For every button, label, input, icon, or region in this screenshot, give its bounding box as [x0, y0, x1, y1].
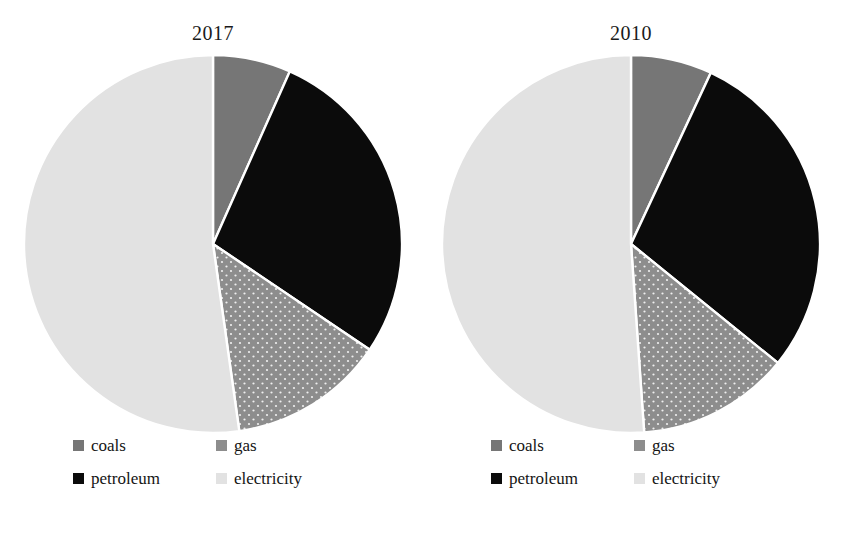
pie-2010 [440, 53, 822, 435]
legend-label-coals: coals [91, 437, 126, 454]
legend-swatch-electricity-icon [216, 473, 227, 484]
legend-item-gas[interactable]: gas [634, 437, 771, 454]
legend-label-electricity: electricity [652, 470, 720, 487]
page-title-2017: 2017 [0, 22, 426, 45]
legend-swatch-coals-icon [73, 440, 84, 451]
legend-label-gas: gas [652, 437, 675, 454]
legend-2017: coals gas petroleum electricity [73, 437, 353, 487]
pie-svg-2010 [440, 53, 822, 435]
legend-swatch-electricity-icon [634, 473, 645, 484]
legend-item-coals[interactable]: coals [73, 437, 210, 454]
chart-panel-2017: 2017 coals gas petroleum electricity [0, 0, 426, 534]
legend-label-petroleum: petroleum [91, 470, 160, 487]
legend-item-electricity[interactable]: electricity [216, 470, 353, 487]
pie-slice-electricity[interactable] [442, 55, 644, 433]
legend-label-gas: gas [234, 437, 257, 454]
legend-swatch-gas-icon [216, 440, 227, 451]
legend-swatch-coals-icon [491, 440, 502, 451]
legend-item-petroleum[interactable]: petroleum [491, 470, 628, 487]
chart-panel-2010: 2010 coals gas petroleum electricity [418, 0, 844, 534]
legend-item-gas[interactable]: gas [216, 437, 353, 454]
legend-swatch-petroleum-icon [491, 473, 502, 484]
legend-label-petroleum: petroleum [509, 470, 578, 487]
pie-2017 [22, 53, 404, 435]
page-title-2010: 2010 [418, 22, 844, 45]
legend-item-electricity[interactable]: electricity [634, 470, 771, 487]
legend-label-electricity: electricity [234, 470, 302, 487]
legend-item-petroleum[interactable]: petroleum [73, 470, 210, 487]
pie-slice-electricity[interactable] [24, 55, 239, 433]
pie-chart-figure: 2017 coals gas petroleum electricity [0, 0, 853, 534]
legend-item-coals[interactable]: coals [491, 437, 628, 454]
pie-svg-2017 [22, 53, 404, 435]
legend-swatch-gas-icon [634, 440, 645, 451]
legend-2010: coals gas petroleum electricity [491, 437, 771, 487]
legend-swatch-petroleum-icon [73, 473, 84, 484]
legend-label-coals: coals [509, 437, 544, 454]
